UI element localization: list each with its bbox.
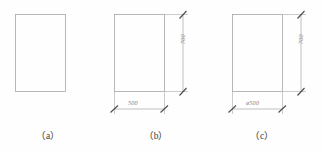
figure-c-group <box>229 11 307 114</box>
figure-a-group <box>16 15 66 92</box>
figure-b-caption: （b） <box>108 128 204 142</box>
figure-b-width-dimension-label: 500 <box>128 99 138 106</box>
figure-a-rectangle <box>16 15 66 92</box>
figure-b-height-dimension-label: 700 <box>179 34 186 44</box>
figure-a-caption: （a） <box>0 128 96 142</box>
figure-c-height-dimension-label: 700 <box>297 34 304 44</box>
figure-c-width-dimension-label: ø500 <box>246 99 259 106</box>
figure-c-rectangle <box>233 15 283 92</box>
figure-b-group <box>111 11 189 114</box>
figure-b-rectangle <box>115 15 165 92</box>
figure-c-caption: （c） <box>214 128 310 142</box>
